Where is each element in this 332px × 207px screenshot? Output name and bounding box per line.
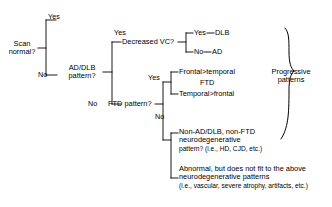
terminal-non-ad-dlb-line2: neurodegenerative <box>179 136 291 144</box>
edge-label-ad-dlb-yes: Yes <box>114 29 126 37</box>
edge-label-ftd-yes: Yes <box>148 74 160 82</box>
terminal-abnormal-not-fitting: Abnormal, but does not fit to the above … <box>179 165 331 189</box>
node-ad-dlb-pattern[interactable]: AD/DLB pattern? <box>60 64 104 81</box>
node-ad-dlb-pattern-line2: pattern? <box>60 72 104 80</box>
group-label-progressive-patterns: Progressive patterns <box>262 68 320 85</box>
node-decreased-vc[interactable]: Decreased VC? <box>122 38 174 46</box>
node-scan-normal-line2: normal? <box>6 48 38 56</box>
terminal-ftd: FTD <box>200 79 214 87</box>
node-ftd-pattern[interactable]: FTD pattern? <box>108 100 152 108</box>
terminal-abnormal-line2: neurodegenerative patterns <box>179 173 331 181</box>
terminal-dlb: DLB <box>215 29 229 37</box>
edge-label-root-yes: Yes <box>48 13 60 21</box>
edge-label-ad-dlb-no: No <box>88 100 97 108</box>
edge-label-vc-yes: Yes <box>194 29 206 37</box>
edge-label-vc-no: No <box>194 48 203 56</box>
terminal-frontal-greater-temporal: Frontal>temporal <box>179 68 235 76</box>
node-scan-normal[interactable]: Scan normal? <box>6 40 38 57</box>
terminal-non-ad-dlb-non-ftd: Non-AD/DLB, non-FTD neurodegenerative pa… <box>179 128 291 152</box>
terminal-temporal-greater-frontal: Temporal>frontal <box>179 90 234 98</box>
terminal-non-ad-dlb-line3: pattern? (i.e., HD, CJD, etc.) <box>179 145 291 152</box>
edge-label-root-no: No <box>38 71 47 79</box>
terminal-abnormal-line3: (i.e., vascular, severe atrophy, artifac… <box>179 182 331 189</box>
group-label-progressive-line2: patterns <box>262 76 320 84</box>
terminal-ad: AD <box>212 48 222 56</box>
edge-label-ftd-no: No <box>155 113 164 121</box>
